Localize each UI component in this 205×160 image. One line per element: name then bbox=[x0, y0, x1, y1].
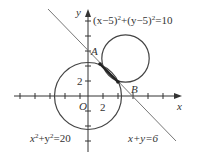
intersection-point-2 bbox=[116, 80, 120, 84]
circle-center-5-5 bbox=[102, 35, 149, 82]
circle1-equation: x2+y2=20 bbox=[29, 132, 71, 144]
x-tick-label-2: 2 bbox=[100, 101, 106, 113]
origin-label: O bbox=[79, 100, 87, 112]
point-a-label: A bbox=[90, 45, 98, 57]
x-axis-label: x bbox=[176, 100, 182, 112]
y-axis bbox=[85, 9, 91, 152]
y-axis-arrow-icon bbox=[85, 9, 91, 17]
x-axis-arrow-icon bbox=[174, 93, 182, 99]
line-equation: x+y=6 bbox=[127, 132, 159, 144]
y-tick-label-2: 2 bbox=[77, 75, 83, 87]
intersection-segment bbox=[100, 64, 118, 82]
intersection-point-1 bbox=[98, 62, 102, 66]
circle2-equation: (x−5)2+(y−5)2=10 bbox=[93, 14, 173, 27]
y-axis-label: y bbox=[75, 6, 81, 18]
coordinate-diagram: y x O 2 2 A B (x−5)2+(y−5)2=10 x2+y2=20 … bbox=[0, 0, 205, 160]
point-b-label: B bbox=[131, 83, 138, 95]
x-axis bbox=[14, 93, 182, 99]
